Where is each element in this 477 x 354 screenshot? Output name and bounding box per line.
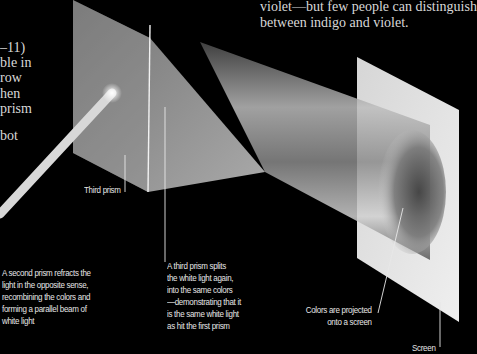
caption-line: A second prism refracts the [2,267,91,279]
body-text-line: violet—but few people can distinguish [260,0,477,15]
caption-line: onto a screen [306,316,372,328]
caption-line: into the same colors [167,284,241,296]
body-text-line: prism [0,101,32,116]
caption-colors-projected: Colors are projected onto a screen [306,304,372,328]
caption-line: is the same white light [167,308,241,320]
label-third-prism: Third prism [84,184,121,196]
caption-line: white light [2,315,91,327]
light-entry-glow [102,83,122,103]
body-text-left-fragment: –11) ble in row hen prism bot [0,40,32,143]
body-text-line: bot [0,128,32,143]
caption-line: the white light again, [167,272,241,284]
caption-line: Colors are projected [306,304,372,316]
caption-line: A third prism splits [167,260,241,272]
label-text: Third prism [84,184,121,196]
body-text-line: hen [0,86,32,101]
caption-line: recombining the colors and [2,291,91,303]
body-text-line: ble in [0,55,32,70]
caption-second-prism: A second prism refracts the light in the… [2,267,91,327]
caption-line: as hit the first prism [167,320,241,332]
caption-line: light in the opposite sense, [2,279,91,291]
body-text-line: between indigo and violet. [260,15,477,31]
body-text-line: row [0,70,32,85]
projected-spot [378,130,446,254]
body-text-line: –11) [0,40,32,55]
label-screen: Screen [412,342,436,354]
caption-third-prism-note: A third prism splits the white light aga… [167,260,241,332]
spacer [0,116,32,128]
body-text-right: violet—but few people can distinguish be… [260,0,477,30]
label-text: Screen [412,342,436,354]
caption-line: —demonstrating that it [167,296,241,308]
caption-line: forming a parallel beam of [2,303,91,315]
